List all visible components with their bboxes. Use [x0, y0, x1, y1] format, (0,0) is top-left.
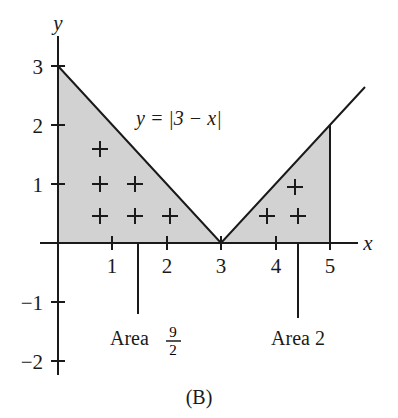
area-left-label: Area — [110, 327, 149, 349]
y-tick-label-3: 3 — [33, 55, 44, 79]
y-tick-label-neg1: −1 — [21, 291, 43, 315]
x-tick-label-1: 1 — [107, 254, 118, 278]
x-axis-label: x — [362, 231, 373, 255]
area-left-denominator: 2 — [169, 342, 177, 358]
x-tick-label-4: 4 — [271, 254, 282, 278]
equation-label: y = |3 − x| — [134, 107, 222, 130]
y-tick-label-neg2: −2 — [21, 350, 43, 374]
area-right-label: Area 2 — [271, 327, 325, 349]
plot-svg: 1 2 3 4 5 3 2 1 −1 −2 x y y = |3 − x| — [0, 0, 398, 418]
figure-caption: (B) — [186, 386, 213, 409]
figure-container: 1 2 3 4 5 3 2 1 −1 −2 x y y = |3 − x| — [0, 0, 398, 418]
y-axis-label: y — [51, 11, 63, 35]
x-tick-label-5: 5 — [325, 254, 336, 278]
x-tick-label-3: 3 — [216, 254, 227, 278]
y-tick-label-1: 1 — [33, 173, 44, 197]
y-tick-label-2: 2 — [33, 114, 44, 138]
area-left-numerator: 9 — [169, 324, 177, 340]
x-tick-label-2: 2 — [162, 254, 173, 278]
